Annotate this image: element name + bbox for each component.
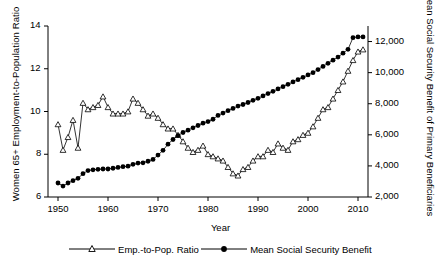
x-tick-label-1970: 1970 xyxy=(148,203,169,214)
series-benefit xyxy=(56,34,366,188)
legend-label-benefit: Mean Social Security Benefit xyxy=(250,244,371,255)
y-tick-label-right-2000: 2,000 xyxy=(375,190,399,201)
y-tick-label-left-6: 6 xyxy=(36,190,41,201)
x-tick-label-1950: 1950 xyxy=(48,203,69,214)
chart-legend: Emp.-to-Pop. Ratio Mean Social Security … xyxy=(0,243,441,255)
series-emp-to-pop xyxy=(55,47,366,178)
x-tick-label-2000: 2000 xyxy=(298,203,319,214)
legend-marker-emp-to-pop-icon xyxy=(69,244,115,254)
y-tick-label-left-12: 12 xyxy=(30,62,41,73)
y-tick-label-right-8000: 8,000 xyxy=(375,97,399,108)
x-tick-label-2010: 2010 xyxy=(348,203,369,214)
x-tick-label-1980: 1980 xyxy=(198,203,219,214)
y-tick-label-left-14: 14 xyxy=(30,19,41,30)
y-tick-label-right-10000: 10,000 xyxy=(375,66,404,77)
legend-marker-benefit-icon xyxy=(201,244,247,254)
y-tick-label-left-8: 8 xyxy=(36,147,41,158)
legend-label-emp-to-pop: Emp.-to-Pop. Ratio xyxy=(118,244,199,255)
x-tick-label-1990: 1990 xyxy=(248,203,269,214)
y-tick-label-left-10: 10 xyxy=(30,105,41,116)
y-tick-label-right-6000: 6,000 xyxy=(375,128,399,139)
y-tick-label-right-4000: 4,000 xyxy=(375,159,399,170)
chart-figure: Women 65+ Employment-to-Population Ratio… xyxy=(0,0,441,270)
y-tick-label-right-12000: 12,000 xyxy=(375,35,404,46)
x-tick-label-1960: 1960 xyxy=(98,203,119,214)
